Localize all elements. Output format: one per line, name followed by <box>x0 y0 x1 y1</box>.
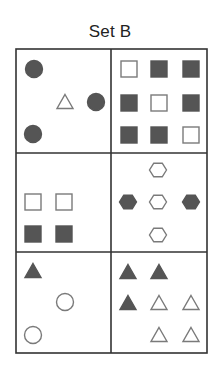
dark-circle-icon <box>25 126 42 143</box>
grid-cells <box>25 61 200 344</box>
cell-r2-c1 <box>25 194 72 242</box>
open-triangle-icon <box>151 296 167 310</box>
open-triangle-icon <box>183 296 199 310</box>
dark-hexagon-icon <box>183 195 200 209</box>
dark-square-icon <box>151 127 167 143</box>
open-square-icon <box>56 194 72 210</box>
open-circle-icon <box>57 294 74 311</box>
open-hexagon-icon <box>150 163 167 177</box>
open-square-icon <box>151 95 167 111</box>
grid-lines <box>16 49 207 353</box>
dark-square-icon <box>56 226 72 242</box>
open-square-icon <box>183 127 199 143</box>
dark-square-icon <box>25 226 41 242</box>
dark-triangle-icon <box>151 265 167 279</box>
open-triangle-icon <box>151 328 167 342</box>
dark-square-icon <box>183 61 199 77</box>
dark-triangle-icon <box>25 264 41 278</box>
dark-square-icon <box>151 61 167 77</box>
dark-square-icon <box>121 95 137 111</box>
cell-r2-c2 <box>120 163 200 242</box>
dark-triangle-icon <box>120 265 136 279</box>
open-hexagon-icon <box>150 228 167 242</box>
open-circle-icon <box>25 327 42 344</box>
cell-r3-c2 <box>120 265 199 342</box>
dark-circle-icon <box>26 61 43 78</box>
dark-triangle-icon <box>120 296 136 310</box>
dark-hexagon-icon <box>120 195 137 209</box>
dark-square-icon <box>183 95 199 111</box>
cell-r1-c1 <box>25 61 105 143</box>
open-triangle-icon <box>183 328 199 342</box>
cell-r3-c1 <box>25 264 74 344</box>
cell-r1-c2 <box>121 61 199 143</box>
dark-circle-icon <box>88 94 105 111</box>
open-triangle-icon <box>57 95 73 109</box>
shape-grid-figure <box>0 0 220 375</box>
open-square-icon <box>25 194 41 210</box>
open-square-icon <box>121 61 137 77</box>
dark-square-icon <box>121 127 137 143</box>
open-hexagon-icon <box>150 195 167 209</box>
